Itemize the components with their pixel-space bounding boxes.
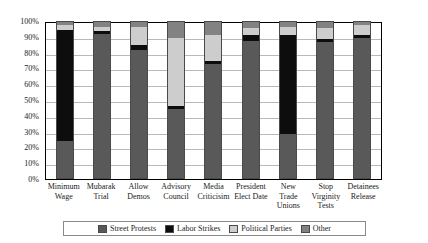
chart-legend: Street ProtestsLabor StrikesPolitical Pa… — [63, 221, 366, 236]
y-axis-tick-label: 60% — [24, 81, 39, 89]
legend-label: Labor Strikes — [177, 225, 220, 233]
bar-slot — [344, 23, 381, 179]
x-axis-label: Minimum Wage — [45, 182, 82, 211]
legend-swatch — [165, 225, 174, 233]
stacked-bar — [167, 21, 185, 179]
stacked-bar — [56, 21, 74, 179]
bar-segment-political-parties — [205, 35, 221, 62]
bar-slot — [83, 23, 120, 179]
x-axis-label: Media Criticisim — [195, 182, 232, 211]
bar-segment-street-protests — [317, 42, 333, 178]
bar-segment-street-protests — [280, 134, 296, 178]
stacked-bar — [242, 21, 260, 179]
bar-slot — [158, 23, 195, 179]
legend-item: Political Parties — [229, 225, 291, 233]
bar-segment-labor-strikes — [57, 30, 73, 141]
x-axis-label: Mubarak Trial — [82, 182, 119, 211]
y-axis-tick-label: 80% — [24, 50, 39, 58]
bar-segment-political-parties — [354, 25, 370, 34]
y-axis-tick-label: 100% — [20, 18, 39, 26]
x-axis-labels: Minimum WageMubarak TrialAllow DemosAdvi… — [45, 182, 382, 211]
x-axis-label: New Trade Unions — [270, 182, 307, 211]
bar-segment-political-parties — [131, 27, 147, 46]
legend-label: Other — [313, 225, 331, 233]
y-axis-tick-label: 50% — [24, 97, 39, 105]
legend-item: Street Protests — [98, 225, 156, 233]
bar-segment-street-protests — [57, 141, 73, 178]
y-axis-tick-label: 40% — [24, 113, 39, 121]
bar-slot — [46, 23, 83, 179]
stacked-bar — [130, 21, 148, 179]
legend-swatch — [98, 225, 107, 233]
bar-segment-labor-strikes — [280, 35, 296, 135]
x-axis-label: Allow Demos — [120, 182, 157, 211]
bar-segment-political-parties — [168, 38, 184, 107]
bar-segment-other — [168, 22, 184, 38]
bar-slot — [307, 23, 344, 179]
stacked-bar — [316, 21, 334, 179]
bar-segment-street-protests — [168, 109, 184, 178]
legend-item: Labor Strikes — [165, 225, 220, 233]
bar-slot — [232, 23, 269, 179]
bar-group — [46, 23, 381, 179]
stacked-bar — [204, 21, 222, 179]
legend-label: Political Parties — [241, 225, 291, 233]
bar-slot — [269, 23, 306, 179]
bar-slot — [195, 23, 232, 179]
legend-label: Street Protests — [110, 225, 156, 233]
bar-segment-street-protests — [243, 41, 259, 178]
y-axis-tick-label: 10% — [24, 160, 39, 168]
x-axis-label: Detainees Release — [345, 182, 382, 211]
y-axis-tick-label: 0% — [28, 176, 39, 184]
y-axis: 100%90%80%70%60%50%40%30%20%10%0% — [0, 22, 42, 180]
stacked-bar — [353, 21, 371, 179]
y-axis-tick-label: 90% — [24, 34, 39, 42]
bar-slot — [120, 23, 157, 179]
x-axis-label: Stop Virginity Tests — [307, 182, 344, 211]
bar-segment-other — [205, 22, 221, 34]
x-axis-label: President Elect Date — [232, 182, 269, 211]
y-axis-tick-label: 70% — [24, 65, 39, 73]
stacked-bar — [93, 21, 111, 179]
bar-segment-political-parties — [317, 28, 333, 39]
x-axis-label: Advisory Council — [157, 182, 194, 211]
legend-swatch — [229, 225, 238, 233]
legend-item: Other — [301, 225, 331, 233]
plot-area — [45, 22, 382, 180]
y-axis-tick-label: 30% — [24, 129, 39, 137]
bar-segment-street-protests — [131, 50, 147, 178]
bar-segment-street-protests — [205, 64, 221, 178]
bar-segment-street-protests — [94, 34, 110, 178]
y-axis-tick-label: 20% — [24, 144, 39, 152]
stacked-bar — [279, 21, 297, 179]
legend-swatch — [301, 225, 310, 233]
bar-segment-political-parties — [280, 27, 296, 35]
stacked-bar-chart: 100%90%80%70%60%50%40%30%20%10%0% Minimu… — [0, 0, 428, 243]
bar-segment-street-protests — [354, 38, 370, 178]
